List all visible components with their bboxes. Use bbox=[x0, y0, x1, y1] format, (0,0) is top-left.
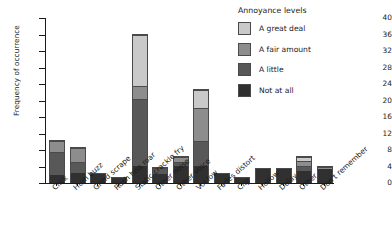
y-tick-mark bbox=[39, 134, 45, 135]
legend: Annoyance levels A great dealA fair amou… bbox=[238, 6, 388, 104]
y-tick-label: 16 bbox=[358, 113, 392, 120]
y-tick-mark bbox=[39, 84, 45, 85]
bar-segment bbox=[194, 90, 208, 108]
legend-item-label: A little bbox=[259, 65, 284, 74]
y-tick-label: 4 bbox=[358, 163, 392, 170]
y-tick-mark bbox=[39, 18, 45, 19]
bar-segment bbox=[71, 148, 85, 162]
legend-item[interactable]: A little bbox=[238, 63, 388, 76]
y-axis-label: Frequency of occurrence bbox=[12, 11, 21, 131]
legend-item-label: A great deal bbox=[259, 24, 305, 33]
legend-swatch-icon bbox=[238, 43, 251, 56]
stacked-bar-chart: Frequency of occurrence 0481216202428323… bbox=[0, 0, 392, 251]
legend-title: Annoyance levels bbox=[238, 6, 388, 15]
y-tick-mark bbox=[39, 150, 45, 151]
y-tick-mark bbox=[39, 101, 45, 102]
y-tick-mark bbox=[39, 117, 45, 118]
legend-swatch-icon bbox=[238, 22, 251, 35]
legend-swatch-icon bbox=[238, 84, 251, 97]
bar-segment bbox=[50, 152, 64, 175]
bar-segment bbox=[133, 35, 147, 86]
bar-segment bbox=[50, 141, 64, 153]
bar-segment bbox=[133, 86, 147, 100]
bar-segment bbox=[71, 162, 85, 173]
y-tick-label: 12 bbox=[358, 130, 392, 137]
y-tick-mark bbox=[39, 68, 45, 69]
legend-item-label: A fair amount bbox=[259, 45, 311, 54]
y-tick-mark bbox=[39, 167, 45, 168]
y-tick-label: 0 bbox=[358, 179, 392, 186]
legend-item[interactable]: Not at all bbox=[238, 84, 388, 97]
bar-segment bbox=[194, 108, 208, 141]
legend-item[interactable]: A great deal bbox=[238, 22, 388, 35]
y-tick-mark bbox=[39, 51, 45, 52]
legend-swatch-icon bbox=[238, 63, 251, 76]
y-tick-mark bbox=[39, 35, 45, 36]
legend-item[interactable]: A fair amount bbox=[238, 43, 388, 56]
y-tick-mark bbox=[39, 183, 45, 184]
legend-item-label: Not at all bbox=[259, 86, 294, 95]
